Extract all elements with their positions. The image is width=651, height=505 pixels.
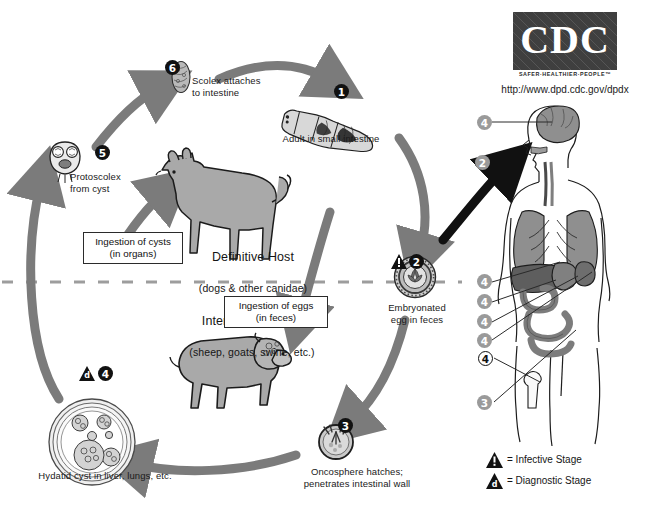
human-marker-lung: 4: [477, 274, 492, 289]
definitive-host-subtitle: (dogs & other canidae): [178, 282, 328, 295]
step-label-5: Protoscolex from cyst: [70, 171, 144, 194]
life-cycle-diagram: CDC SAFER·HEALTHIER·PEOPLE™ http://www.d…: [0, 0, 651, 505]
arrow-cyst-to-protoscolex: [31, 182, 59, 399]
human-marker-kidney: 4: [477, 333, 492, 348]
intermediate-host-subtitle: (sheep, goats, swine, etc.): [152, 346, 352, 359]
arrow-protoscolex-to-scolex: [96, 88, 159, 147]
caption-ingestion-of-eggs: Ingestion of eggs (in feces): [224, 296, 328, 328]
svg-text:d: d: [492, 480, 498, 489]
diagnostic-stage-icon: d: [486, 473, 503, 489]
step-bullet-2: 2: [409, 254, 424, 269]
step-bullet-1: 1: [334, 84, 349, 99]
arrow-egg-to-oncosphere: [352, 320, 405, 420]
infective-stage-marker-step2: [391, 254, 407, 269]
arrow-oncosphere-to-cyst: [133, 455, 296, 471]
cdc-logo: CDC: [513, 12, 617, 70]
organ-bone: [524, 371, 541, 408]
cdc-logo-text: CDC: [513, 12, 617, 68]
step-label-1: Adult in small intestine: [266, 133, 396, 145]
legend-row-diagnostic: d = Diagnostic Stage: [486, 470, 591, 491]
step-label-3: Oncosphere hatches; penetrates intestina…: [292, 466, 422, 489]
cdc-logo-tagline: SAFER·HEALTHIER·PEOPLE™: [513, 71, 617, 77]
step-bullet-3: 3: [338, 418, 353, 433]
human-marker-spleen: 4: [477, 314, 492, 329]
organ-intestine: [523, 288, 571, 354]
human-marker-bone: 4: [478, 351, 493, 366]
diagnostic-stage-glyph: d: [79, 366, 95, 381]
arrow-egg-to-human: [443, 168, 505, 240]
step-bullet-5: 5: [95, 145, 110, 160]
infective-stage-icon: [486, 452, 503, 468]
pointer-bone: [494, 358, 540, 382]
arrow-adult-to-egg: [399, 138, 425, 252]
organ-brain: [537, 106, 580, 143]
human-marker-brain: 4: [477, 115, 492, 130]
caption-ingestion-of-cysts: Ingestion of cysts (in organs): [83, 232, 183, 264]
step-label-6: Scolex attaches to intestine: [192, 75, 284, 98]
definitive-host-title: Definitive Host: [178, 250, 328, 264]
human-marker-intestine: 3: [477, 395, 492, 410]
step-label-2: Embryonated egg in feces: [374, 302, 460, 325]
stage-legend: = Infective Stage d = Diagnostic Stage: [486, 449, 591, 491]
cdc-url: http://www.dpd.cdc.gov/dpdx: [487, 84, 643, 95]
step-bullet-4: 4: [98, 366, 113, 381]
human-marker-ingestion: 2: [475, 155, 490, 170]
organ-spleen: [575, 262, 595, 286]
organ-stomach: [552, 263, 578, 290]
illustration-human-body: [498, 106, 610, 446]
legend-text-infective: = Infective Stage: [507, 454, 582, 465]
diagnostic-stage-marker-step4: d: [79, 366, 95, 381]
step-label-4: Hydatid cyst in liver, lungs, etc.: [14, 470, 196, 482]
legend-text-diagnostic: = Diagnostic Stage: [507, 475, 591, 486]
human-marker-liver: 4: [477, 294, 492, 309]
step-bullet-6: 6: [165, 60, 180, 75]
legend-row-infective: = Infective Stage: [486, 449, 591, 470]
